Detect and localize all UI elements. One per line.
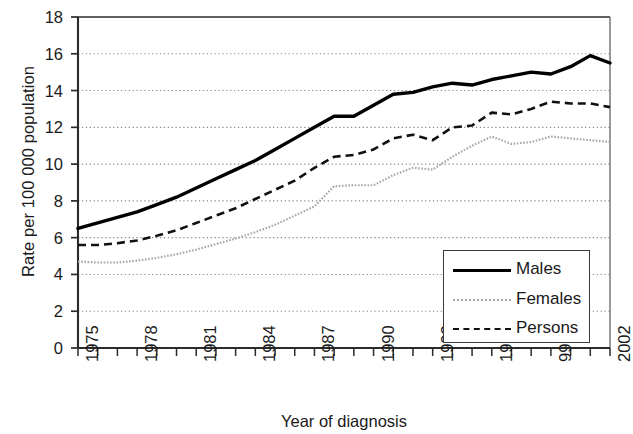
legend-item-persons: Persons [444, 312, 591, 343]
series-line-females [78, 137, 610, 263]
legend-label-males: Males [516, 260, 561, 277]
x-tick-label: 1990 [380, 325, 397, 362]
y-tick-label: 10 [23, 156, 63, 173]
legend-item-males: Males [444, 253, 591, 284]
legend-label-females: Females [516, 290, 581, 307]
legend-swatch-females [453, 292, 511, 306]
y-tick-label: 18 [23, 9, 63, 26]
legend-label-persons: Persons [516, 319, 578, 336]
legend-swatch-persons [453, 321, 511, 335]
y-tick-label: 16 [23, 46, 63, 63]
x-tick-label: 1987 [320, 325, 337, 362]
y-tick-label: 12 [23, 119, 63, 136]
y-tick-label: 6 [23, 230, 63, 247]
y-tick-label: 2 [23, 303, 63, 320]
series-line-persons [78, 102, 610, 245]
x-tick-label: 1975 [84, 325, 101, 362]
x-tick-label: 1978 [143, 325, 160, 362]
x-tick-label: 1984 [261, 325, 278, 362]
y-tick-label: 14 [23, 83, 63, 100]
legend-item-females: Females [444, 283, 591, 314]
x-tick-label: 2002 [616, 325, 633, 362]
y-tick-label: 0 [23, 340, 63, 357]
chart-legend: Males Females Persons [443, 250, 590, 343]
y-tick-label: 4 [23, 266, 63, 283]
legend-swatch-males [453, 262, 511, 276]
y-tick-label: 8 [23, 193, 63, 210]
x-tick-label: 1981 [202, 325, 219, 362]
